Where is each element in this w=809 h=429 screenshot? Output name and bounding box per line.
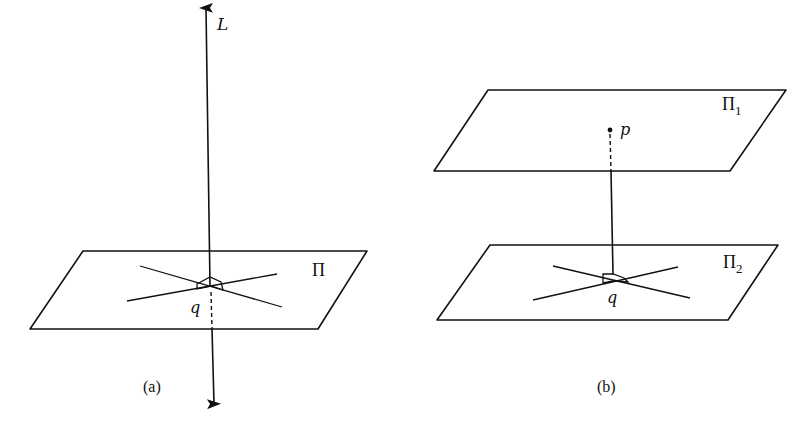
- point-p: [608, 128, 613, 133]
- perpendicular-lines-star: [127, 266, 282, 307]
- plane-label-pi-2: Π2: [723, 252, 743, 276]
- point-label-q: q: [190, 298, 200, 317]
- line-l-lower: [212, 329, 214, 404]
- line-l-hidden: [211, 292, 212, 329]
- line-l-upper: [206, 8, 210, 286]
- panel-a: L Π q (a): [30, 8, 367, 404]
- plane-label-pi-1: Π1: [722, 94, 742, 118]
- caption-b: (b): [597, 378, 616, 396]
- panel-b: Π1 p Π2 q (b): [434, 90, 786, 396]
- line-label-l: L: [216, 14, 228, 34]
- figure-canvas: L Π q (a) Π1 p Π2 q (b): [0, 0, 809, 429]
- caption-a: (a): [143, 378, 161, 396]
- segment-p-hidden: [610, 134, 611, 171]
- segment-between-planes: [611, 171, 613, 274]
- plane-label-pi: Π: [312, 260, 325, 280]
- point-label-q-b: q: [607, 288, 617, 307]
- point-label-p: p: [620, 120, 630, 139]
